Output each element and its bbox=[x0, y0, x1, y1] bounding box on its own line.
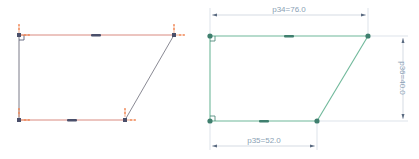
vertex-point[interactable] bbox=[17, 33, 21, 37]
vertex-point[interactable] bbox=[314, 118, 319, 123]
arrow-down-icon bbox=[402, 114, 405, 119]
vertex-point[interactable] bbox=[207, 118, 212, 123]
extension-lines bbox=[210, 8, 408, 150]
horizontal-constraint-icon[interactable] bbox=[284, 35, 294, 38]
handle-arrowhead-icon bbox=[18, 24, 185, 121]
left-diagonal-edge[interactable] bbox=[125, 35, 174, 120]
horizontal-constraint-icon[interactable] bbox=[67, 119, 77, 122]
right-diagonal-edge[interactable] bbox=[317, 36, 368, 121]
dimension-p35[interactable]: p35=52.0 bbox=[212, 136, 315, 148]
dimension-label[interactable]: p35=52.0 bbox=[247, 136, 281, 145]
vertex-point[interactable] bbox=[17, 118, 21, 122]
arrow-right-icon bbox=[310, 145, 315, 148]
dimension-p34[interactable]: p34=76.0 bbox=[212, 5, 366, 17]
arrow-up-icon bbox=[402, 38, 405, 43]
dimension-label[interactable]: p34=76.0 bbox=[272, 5, 306, 14]
arrow-right-icon bbox=[361, 14, 366, 17]
horizontal-constraint-icon[interactable] bbox=[91, 34, 101, 37]
vertex-point[interactable] bbox=[123, 118, 127, 122]
dimension-label[interactable]: p36=40.0 bbox=[398, 61, 407, 95]
vertex-point[interactable] bbox=[207, 33, 212, 38]
dimension-p36[interactable]: p36=40.0 bbox=[398, 38, 407, 119]
vertex-point[interactable] bbox=[172, 33, 176, 37]
vertex-point[interactable] bbox=[365, 33, 370, 38]
sketch-canvas: p34=76.0 p35=52.0 p36=40.0 bbox=[0, 0, 419, 159]
right-sketch: p34=76.0 p35=52.0 p36=40.0 bbox=[207, 5, 408, 150]
arrow-left-icon bbox=[212, 145, 217, 148]
drag-handle-icon[interactable] bbox=[19, 25, 184, 120]
horizontal-constraint-icon[interactable] bbox=[259, 120, 269, 123]
arrow-left-icon bbox=[212, 14, 217, 17]
left-sketch bbox=[17, 24, 185, 122]
